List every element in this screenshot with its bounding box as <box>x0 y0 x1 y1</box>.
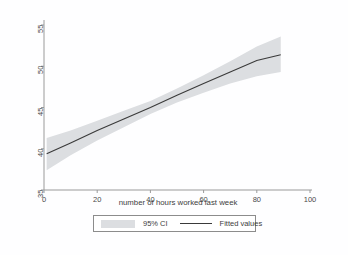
x-axis-title: number of hours worked last week <box>44 198 312 207</box>
chart-legend: 95% CI Fitted values <box>93 215 256 232</box>
legend-label-ci: 95% CI <box>143 219 168 228</box>
fitted-line-swatch-icon <box>180 223 212 224</box>
y-tick-label: 40 <box>36 148 45 156</box>
regression-plot-figure: 3540455055 020406080100 number of hours … <box>0 0 348 255</box>
y-tick-label: 45 <box>36 107 45 115</box>
legend-entry-fitted: Fitted values <box>168 216 263 231</box>
y-tick-label: 50 <box>36 66 45 74</box>
y-tick-label: 55 <box>36 25 45 33</box>
legend-label-fitted: Fitted values <box>220 219 263 228</box>
confidence-interval-band <box>47 37 281 171</box>
legend-entry-ci: 95% CI <box>94 216 168 231</box>
ci-band-swatch-icon <box>101 220 135 228</box>
